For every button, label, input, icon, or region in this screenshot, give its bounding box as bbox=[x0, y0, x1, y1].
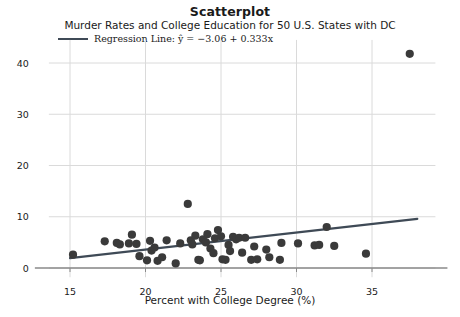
data-point bbox=[163, 236, 171, 244]
data-point bbox=[158, 253, 166, 261]
data-point bbox=[209, 249, 217, 257]
data-point bbox=[135, 252, 143, 260]
data-point bbox=[146, 237, 154, 245]
data-point bbox=[101, 237, 109, 245]
data-point bbox=[125, 239, 133, 247]
data-point bbox=[150, 243, 158, 251]
data-point bbox=[221, 256, 229, 264]
data-point bbox=[191, 232, 199, 240]
y-tick-label: 40 bbox=[17, 58, 29, 69]
x-axis-label: Percent with College Degree (%) bbox=[0, 294, 460, 306]
data-point bbox=[241, 234, 249, 242]
data-point bbox=[203, 230, 211, 238]
data-point bbox=[226, 247, 234, 255]
y-tick-label: 0 bbox=[23, 263, 29, 274]
y-tick-label: 20 bbox=[17, 160, 29, 171]
data-point bbox=[176, 239, 184, 247]
data-point bbox=[188, 240, 196, 248]
data-point bbox=[69, 251, 77, 259]
data-point bbox=[143, 256, 151, 264]
data-point bbox=[250, 242, 258, 250]
data-point bbox=[262, 245, 270, 253]
axis-lines bbox=[35, 268, 448, 272]
data-point bbox=[315, 241, 323, 249]
data-point bbox=[128, 231, 136, 239]
data-point bbox=[172, 259, 180, 267]
data-points bbox=[69, 50, 414, 268]
scatterplot-figure: Scatterplot Murder Rates and College Edu… bbox=[0, 0, 460, 317]
data-point bbox=[184, 200, 192, 208]
data-point bbox=[265, 253, 273, 261]
data-point bbox=[294, 239, 302, 247]
data-point bbox=[323, 223, 331, 231]
data-point bbox=[132, 240, 140, 248]
data-point bbox=[276, 256, 284, 264]
data-point bbox=[196, 256, 204, 264]
data-point bbox=[253, 255, 261, 263]
data-point bbox=[116, 240, 124, 248]
y-tick-label: 30 bbox=[17, 109, 29, 120]
data-point bbox=[330, 242, 338, 250]
data-point bbox=[406, 50, 414, 58]
data-point bbox=[362, 250, 370, 258]
plot-area: 1520253035010203040 bbox=[0, 0, 460, 317]
data-point bbox=[277, 239, 285, 247]
data-point bbox=[217, 232, 225, 240]
data-point bbox=[238, 249, 246, 257]
y-tick-label: 10 bbox=[17, 211, 29, 222]
